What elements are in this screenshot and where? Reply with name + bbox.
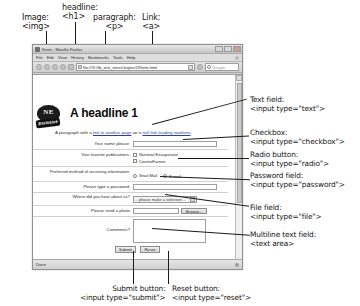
search-placeholder: Google — [212, 65, 225, 70]
menu-help[interactable]: Help — [127, 55, 136, 60]
menu-tools[interactable]: Tools — [113, 55, 123, 60]
annotation-password: Password field: <input type="password"> — [250, 172, 345, 189]
annotation-password-line2: <input type="password"> — [250, 181, 345, 190]
annotation-checkbox: Checkbox: <input type="checkbox"> — [250, 129, 345, 146]
input-file-path[interactable] — [133, 208, 179, 214]
close-button[interactable] — [233, 46, 241, 52]
paragraph-text-after: . — [191, 130, 192, 135]
annotation-radio-line2: <input type="radio"> — [250, 160, 329, 169]
checkbox-label-cosmofarmer: CosmoFarmer — [139, 159, 166, 164]
divider — [33, 149, 228, 150]
annotation-checkbox-line2: <input type="checkbox"> — [250, 138, 345, 147]
browser-titlebar: Form - Mozilla Firefox — [33, 45, 242, 54]
annotation-textarea: Multiline text field: <text area> — [250, 231, 316, 248]
logo-monogram: NE — [35, 108, 62, 116]
stop-icon[interactable] — [60, 64, 66, 70]
menu-file[interactable]: File — [36, 55, 43, 60]
search-box[interactable]: Google — [205, 63, 239, 71]
annotation-link: Link: <a> — [142, 13, 160, 31]
chevron-down-icon[interactable] — [188, 65, 193, 70]
menu-history[interactable]: History — [71, 55, 84, 60]
annotation-paragraph-line1: paragraph: — [93, 13, 136, 22]
window-title: Form - Mozilla Firefox — [42, 47, 82, 52]
checkbox-option-cosmofarmer[interactable]: CosmoFarmer — [133, 158, 228, 164]
page-scrollbar[interactable] — [235, 75, 242, 259]
divider — [33, 192, 228, 193]
firefox-icon — [35, 47, 40, 52]
label-photo: Please send a photo — [33, 208, 133, 214]
page-paragraph: A paragraph with a link to another page … — [55, 130, 231, 135]
form-row-name: Your name please: — [33, 141, 228, 147]
annotation-text-field: Text field: <input type="text"> — [250, 96, 325, 113]
scroll-up-icon[interactable] — [236, 75, 242, 81]
annotation-image-line1: Image: — [22, 13, 50, 22]
site-logo-image: NE Exclusive — [35, 105, 62, 129]
label-publications: Your favorite publications: — [33, 152, 133, 158]
page-favicon — [78, 65, 82, 69]
annotation-headline-line1: headline: — [62, 3, 98, 12]
address-bar[interactable]: file:///X:/lib_test_sites/chapter13/form… — [76, 63, 195, 71]
form-button-row: Submit Reset — [33, 246, 228, 253]
browser-window: Form - Mozilla Firefox File Edit View Hi… — [32, 44, 243, 270]
annotation-paragraph: paragraph: <p> — [93, 13, 136, 31]
minimize-button[interactable] — [215, 46, 223, 52]
page-headline: A headline 1 — [70, 106, 138, 120]
checkbox-label-national-exasperator: National Exasperator — [139, 152, 178, 157]
checkbox-icon[interactable] — [133, 153, 137, 157]
annotation-text-field-line2: <input type="text"> — [250, 105, 325, 114]
browse-button[interactable]: Browse... — [181, 208, 207, 215]
search-icon — [207, 65, 211, 69]
menu-view[interactable]: View — [58, 55, 67, 60]
label-referral: Where did you hear about us? — [33, 194, 133, 200]
menu-edit[interactable]: Edit — [47, 55, 54, 60]
annotation-image: Image: <img> — [22, 13, 50, 31]
divider — [33, 216, 228, 217]
checkbox-option-national-exasperator[interactable]: National Exasperator — [133, 152, 228, 158]
annotation-file: File field: <input type="file"> — [250, 204, 322, 221]
divider — [33, 181, 228, 182]
radio-option-snail-mail[interactable]: Snail Mail — [133, 173, 157, 179]
checkbox-icon[interactable] — [133, 159, 137, 163]
input-name-text[interactable] — [133, 141, 217, 147]
go-icon[interactable] — [197, 64, 203, 70]
annotation-radio: Radio button: <input type="radio"> — [250, 151, 329, 168]
divider — [33, 205, 228, 206]
paragraph-text-middle: an a — [131, 130, 142, 135]
browser-menubar: File Edit View History Bookmarks Tools H… — [33, 54, 242, 62]
file-input-group[interactable]: Browse... — [133, 208, 228, 215]
home-icon[interactable] — [68, 64, 74, 70]
annotation-textarea-line2: <text area> — [250, 240, 316, 249]
window-controls — [215, 46, 241, 52]
label-comments: Comments? — [33, 219, 133, 233]
leader-line-radio — [178, 158, 249, 159]
maximize-button[interactable] — [224, 46, 232, 52]
link-to-another-page[interactable]: link to another page — [93, 130, 132, 135]
input-password[interactable] — [133, 184, 217, 190]
leader-line-reset — [168, 251, 169, 284]
form-row-photo: Please send a photo Browse... — [33, 208, 228, 215]
menubar-indicator-icon — [235, 56, 239, 60]
address-bar-url: file:///X:/lib_test_sites/chapter13/form… — [83, 65, 157, 70]
logo-banner: Exclusive — [36, 118, 61, 129]
back-icon[interactable] — [36, 64, 42, 70]
menu-bookmarks[interactable]: Bookmarks — [88, 55, 109, 60]
annotation-paragraph-line2: <p> — [93, 22, 136, 31]
annotation-link-line1: Link: — [142, 13, 160, 22]
label-contact-method: Preferred method of receiving informatio… — [33, 169, 133, 175]
status-text: Done — [36, 262, 46, 267]
reset-button[interactable]: Reset — [140, 246, 160, 253]
paragraph-text-before: A paragraph with a — [55, 130, 93, 135]
radio-icon[interactable] — [133, 174, 137, 178]
browser-statusbar: Done — [33, 259, 242, 269]
reload-icon[interactable] — [52, 64, 58, 70]
forward-icon[interactable] — [44, 64, 50, 70]
label-password: Please type a password: — [33, 184, 133, 190]
form-row-password: Please type a password: — [33, 184, 228, 190]
radio-label-snail-mail: Snail Mail — [139, 173, 157, 178]
label-name: Your name please: — [33, 141, 133, 147]
null-link[interactable]: null link leading nowhere — [142, 130, 190, 135]
status-indicator-icon — [235, 263, 239, 267]
annotation-file-line2: <input type="file"> — [250, 213, 322, 222]
annotation-submit: Submit button: <input type="submit"> — [80, 285, 165, 302]
divider — [33, 166, 228, 167]
